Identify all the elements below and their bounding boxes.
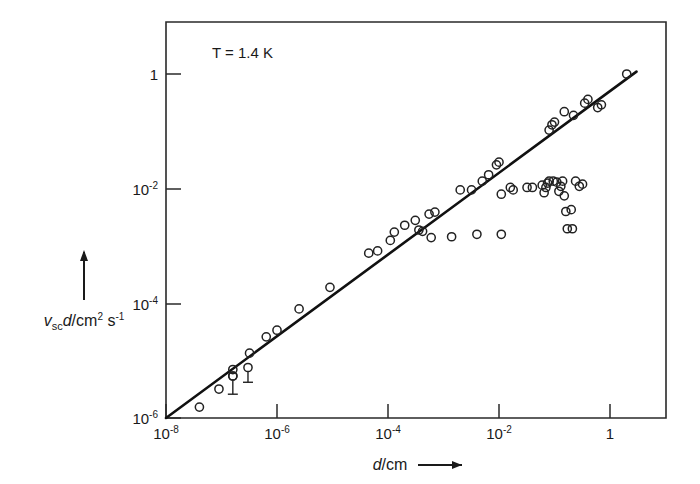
temperature-annotation: T = 1.4 K — [212, 44, 273, 61]
figure-background — [0, 0, 700, 484]
x-tick-label-4: 1 — [606, 425, 614, 442]
y-tick-label-0: 1 — [150, 66, 158, 83]
x-axis-title: d/cm — [373, 456, 408, 473]
chart-figure: 1 10-2 10-4 10-6 10-8 10-6 10-4 10-2 1 d… — [0, 0, 700, 484]
